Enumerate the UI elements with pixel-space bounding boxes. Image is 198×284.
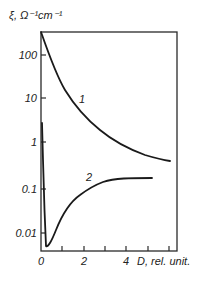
y-tick-label-10: 10: [25, 92, 38, 104]
x-axis-title: D, rel. unit.: [137, 255, 190, 267]
chart: ξ, Ω⁻¹cm⁻¹ 100 10 1 0.1 0.01 0 2 4 D, re…: [0, 0, 198, 284]
curve-2: [42, 123, 152, 246]
x-tick-label-2: 2: [80, 255, 87, 267]
x-tick-label-4: 4: [123, 255, 129, 267]
x-axis-ticks: [62, 246, 169, 251]
curve-2-label: 2: [85, 171, 92, 183]
x-tick-label-0: 0: [38, 255, 45, 267]
y-axis-title: ξ, Ω⁻¹cm⁻¹: [9, 9, 63, 22]
y-tick-label-0-1: 0.1: [22, 183, 37, 195]
curve-1: [41, 32, 170, 161]
curve-1-label: 1: [79, 93, 85, 105]
y-tick-label-0-01: 0.01: [16, 227, 37, 239]
y-tick-label-100: 100: [19, 49, 38, 61]
y-tick-label-1: 1: [31, 136, 37, 148]
